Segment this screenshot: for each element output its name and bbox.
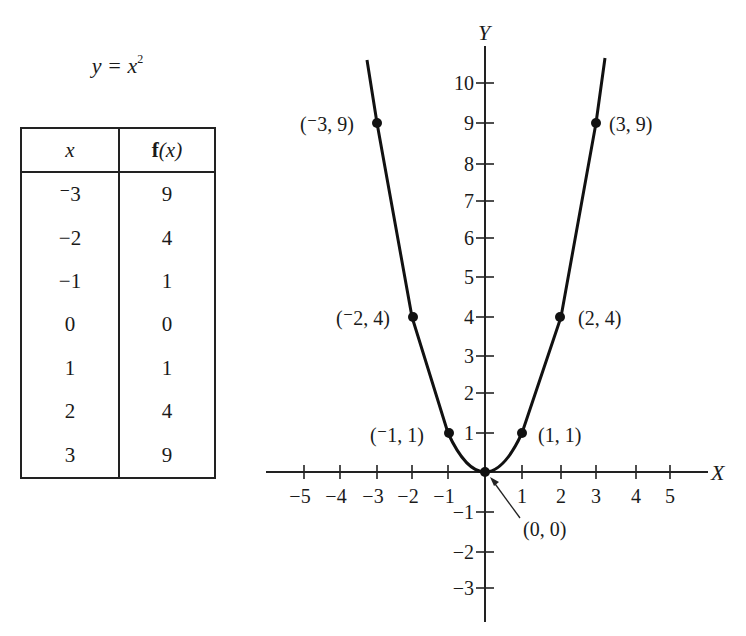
point-labels: (⁻3, 9) (3, 9) (⁻2, 4) (2, 4) (⁻1, 1) (1… [300, 113, 652, 541]
x-tick-labels: −5 −4 −3 −2 −1 1 2 3 4 5 [289, 485, 675, 507]
svg-text:4: 4 [631, 485, 641, 507]
svg-text:5: 5 [464, 266, 474, 288]
y-axis-label: Y [478, 20, 493, 45]
svg-text:8: 8 [464, 153, 474, 175]
origin-arrow-icon [490, 477, 520, 518]
svg-text:5: 5 [665, 485, 675, 507]
svg-text:−3: −3 [453, 577, 474, 599]
svg-text:(⁻3, 9): (⁻3, 9) [300, 113, 354, 136]
parabola-graph: X Y −5 −4 −3 −2 −1 1 2 3 4 5 [0, 0, 746, 636]
svg-text:7: 7 [464, 190, 474, 212]
svg-text:9: 9 [464, 112, 474, 134]
svg-text:(⁻1, 1): (⁻1, 1) [370, 424, 424, 447]
svg-text:−1: −1 [433, 485, 454, 507]
y-tick-labels: 10 9 8 7 6 5 4 3 2 1 −1 −2 −3 [453, 72, 474, 599]
svg-text:(0, 0): (0, 0) [523, 518, 566, 541]
svg-text:−3: −3 [362, 485, 383, 507]
svg-text:3: 3 [591, 485, 601, 507]
svg-text:1: 1 [464, 422, 474, 444]
svg-text:−5: −5 [289, 485, 310, 507]
svg-text:(2, 4): (2, 4) [578, 307, 621, 330]
svg-text:−2: −2 [397, 485, 418, 507]
svg-text:6: 6 [464, 227, 474, 249]
svg-text:−1: −1 [453, 501, 474, 523]
svg-text:4: 4 [464, 306, 474, 328]
svg-text:1: 1 [517, 485, 527, 507]
svg-text:10: 10 [454, 72, 474, 94]
svg-text:3: 3 [464, 345, 474, 367]
svg-text:(⁻2, 4): (⁻2, 4) [336, 307, 390, 330]
svg-text:−2: −2 [453, 541, 474, 563]
svg-text:2: 2 [556, 485, 566, 507]
svg-text:−4: −4 [325, 485, 346, 507]
x-axis-label: X [710, 460, 726, 485]
svg-text:2: 2 [464, 382, 474, 404]
svg-text:(3, 9): (3, 9) [609, 113, 652, 136]
svg-text:(1, 1): (1, 1) [538, 424, 581, 447]
